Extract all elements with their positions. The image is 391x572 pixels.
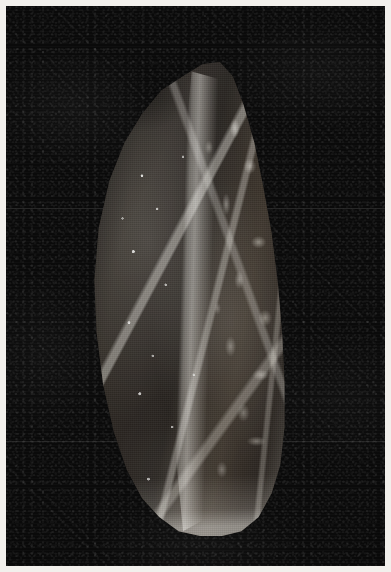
stone-film-grain xyxy=(75,62,291,536)
photographic-plate xyxy=(0,0,391,572)
monochrome-photograph xyxy=(6,6,385,566)
flint-biface-hand-axe xyxy=(75,62,291,536)
